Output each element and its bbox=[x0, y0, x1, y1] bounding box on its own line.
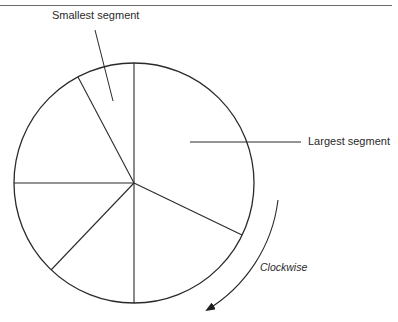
largest-segment-label: Largest segment bbox=[308, 135, 390, 147]
clockwise-label: Clockwise bbox=[260, 261, 307, 273]
clockwise-arrow-icon bbox=[207, 200, 278, 310]
pie-diagram bbox=[0, 0, 398, 322]
smallest-segment-label: Smallest segment bbox=[52, 9, 139, 21]
